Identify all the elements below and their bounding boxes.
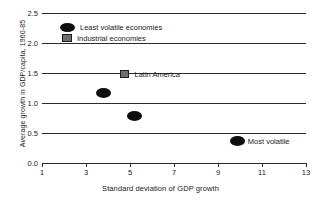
gridline: 0.5 <box>42 133 306 134</box>
x-tick-mark <box>130 163 131 167</box>
x-tick-label: 9 <box>216 168 220 177</box>
data-point[interactable] <box>127 111 142 121</box>
legend-ellipse-icon <box>60 23 75 32</box>
scatter-chart: Average growth in GDP/capita, 1960-85 0.… <box>0 0 321 202</box>
chart-legend: Least volatile economiesIndustrial econo… <box>60 22 210 44</box>
x-tick-label: 3 <box>84 168 88 177</box>
y-axis-title: Average growth in GDP/capita, 1960-85 <box>19 4 26 164</box>
x-tick-mark <box>86 163 87 167</box>
y-tick-label: 0.0 <box>28 159 38 168</box>
data-point-label: Most volatile <box>248 136 290 145</box>
legend-item-label: Least volatile economies <box>80 23 162 32</box>
x-tick-label: 5 <box>128 168 132 177</box>
x-tick-label: 1 <box>40 168 44 177</box>
data-point[interactable] <box>96 88 111 98</box>
x-tick-label: 7 <box>172 168 176 177</box>
x-tick-mark <box>306 163 307 167</box>
x-tick-mark <box>174 163 175 167</box>
y-tick-label: 2.5 <box>28 9 38 18</box>
x-tick-label: 13 <box>302 168 310 177</box>
data-point[interactable] <box>230 136 245 146</box>
x-tick-label: 11 <box>258 168 266 177</box>
legend-item-label: Industrial economies <box>77 34 146 43</box>
gridline: 1.0 <box>42 103 306 104</box>
legend-item[interactable]: Least volatile economies <box>60 22 210 32</box>
x-axis-title: Standard deviation of GDP growth <box>0 184 321 193</box>
x-tick-mark <box>262 163 263 167</box>
y-tick-label: 1.0 <box>28 99 38 108</box>
legend-square-icon <box>62 34 72 42</box>
data-point-label: Latin America <box>135 70 180 79</box>
x-tick-mark <box>218 163 219 167</box>
legend-item[interactable]: Industrial economies <box>60 33 210 43</box>
data-point[interactable] <box>120 70 129 78</box>
y-tick-label: 2.0 <box>28 39 38 48</box>
x-tick-mark <box>42 163 43 167</box>
y-tick-label: 1.5 <box>28 69 38 78</box>
gridline: 2.5 <box>42 13 306 14</box>
y-tick-label: 0.5 <box>28 129 38 138</box>
